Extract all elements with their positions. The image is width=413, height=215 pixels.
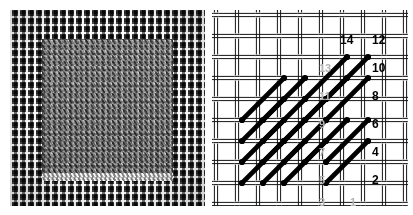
stitch-endpoint-dot	[281, 180, 287, 186]
stitch-endpoint-dot	[281, 159, 287, 165]
stitch-number-12: 12	[372, 33, 386, 47]
stitch-number-3: 3	[319, 196, 325, 206]
stitch-diagram: 1412108642131197531 Working chart showin…	[212, 10, 408, 206]
stitch-number-14: 14	[340, 33, 354, 47]
stitch-number-13: 13	[319, 62, 331, 74]
stitch-endpoint-dot	[281, 75, 287, 81]
stitch-endpoint-dot	[365, 117, 371, 123]
stitch-figure: Photograph of the finished stitch worked…	[0, 0, 413, 215]
stitch-number-1: 1	[350, 196, 356, 206]
stitch-endpoint-dot	[239, 117, 245, 123]
stitch-number-9: 9	[319, 118, 325, 130]
stitch-endpoint-dot	[281, 138, 287, 144]
stitch-number-6: 6	[372, 117, 379, 131]
stitch-endpoint-dot	[365, 54, 371, 60]
stitch-number-10: 10	[372, 61, 386, 75]
stitch-number-5: 5	[319, 174, 325, 186]
stitch-endpoint-dot	[302, 96, 308, 102]
stitch-number-11: 11	[319, 90, 331, 102]
stitch-endpoint-dot	[260, 117, 266, 123]
stitch-endpoint-dot	[260, 180, 266, 186]
stitch-endpoint-dot	[344, 54, 350, 60]
stitch-endpoint-dot	[302, 159, 308, 165]
photo-vignette	[10, 10, 205, 206]
stitch-endpoint-dot	[260, 138, 266, 144]
stitch-endpoint-dot	[239, 159, 245, 165]
stitch-endpoint-dot	[344, 117, 350, 123]
stitch-endpoint-dot	[260, 159, 266, 165]
stitch-number-8: 8	[372, 89, 379, 103]
stitch-chart-svg: 1412108642131197531	[212, 10, 408, 206]
stitch-endpoint-dot	[323, 159, 329, 165]
stitch-endpoint-dot	[365, 138, 371, 144]
stitch-endpoint-dot	[365, 75, 371, 81]
stitch-number-7: 7	[319, 146, 325, 158]
stitch-endpoint-dot	[239, 180, 245, 186]
worked-sample-photograph: Photograph of the finished stitch worked…	[10, 10, 205, 206]
stitch-number-2: 2	[372, 173, 379, 187]
stitch-endpoint-dot	[239, 138, 245, 144]
stitch-endpoint-dot	[302, 75, 308, 81]
stitch-number-4: 4	[372, 145, 379, 159]
stitch-endpoint-dot	[302, 117, 308, 123]
